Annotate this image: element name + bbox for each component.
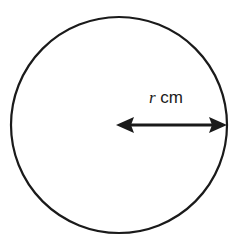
radius-unit: cm xyxy=(160,88,183,107)
radius-variable: r xyxy=(149,88,156,107)
radius-label: r cm xyxy=(149,88,183,108)
circle-diagram xyxy=(0,0,236,246)
